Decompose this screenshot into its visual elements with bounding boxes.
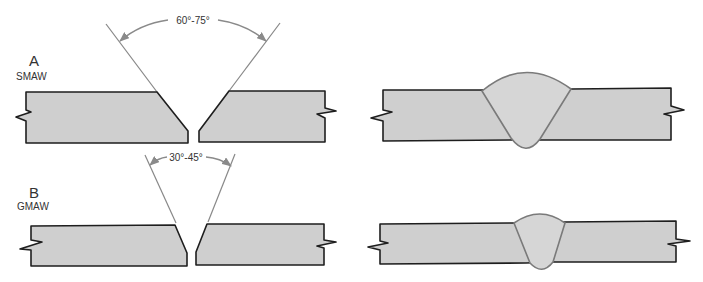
row-a-left-guide-line: [106, 24, 157, 92]
row-a-right-plate: [199, 91, 336, 142]
row-a-angle-label: 60°-75°: [176, 15, 210, 26]
row-b-letter: B: [29, 184, 39, 201]
row-b-left-plate: [20, 225, 187, 266]
row-a-angle-arrow-left: [120, 20, 168, 41]
row-b-right-guide-line: [208, 154, 235, 222]
row-b-angle-arrow-left: [150, 157, 167, 165]
row-a-left-plate: [16, 92, 188, 143]
row-b-right-plate: [196, 224, 336, 265]
weld-joint-diagram: A SMAW 60°-75° B GMAW 30°-45°: [0, 0, 703, 282]
row-b-angle-arrow-right: [206, 157, 231, 166]
row-a-angle-arrow-right: [218, 20, 266, 41]
row-b-left-guide-line: [145, 155, 176, 223]
row-b-angle-label: 30°-45°: [169, 152, 203, 163]
row-a: A SMAW 60°-75°: [16, 15, 684, 148]
row-a-process: SMAW: [16, 71, 47, 82]
row-b: B GMAW 30°-45°: [17, 152, 690, 269]
row-a-letter: A: [29, 52, 39, 69]
row-b-process: GMAW: [17, 201, 49, 212]
